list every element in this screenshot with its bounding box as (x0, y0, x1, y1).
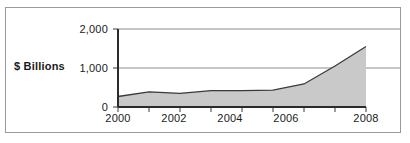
chart-plot-area: 2,000 1,000 0 2000 2002 2004 2006 2008 (0, 0, 410, 143)
figure-panel: $ Billions 2,000 1,000 0 2000 2002 2004 … (0, 0, 410, 143)
area-series-fill (118, 47, 366, 108)
area-chart-graphic (0, 0, 410, 143)
